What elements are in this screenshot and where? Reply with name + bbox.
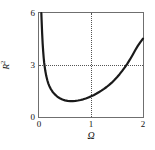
y-tick-label-6: 6 — [31, 9, 36, 18]
y-axis-label-exponent: 2 — [0, 61, 6, 64]
x-tick-label-2: 2 — [141, 120, 146, 129]
plot-area: 6 3 0 0 1 2 — [38, 12, 144, 118]
x-tick-label-0: 0 — [37, 120, 42, 129]
x-axis-label: Ω — [87, 131, 94, 141]
y-tick-label-0: 0 — [31, 113, 36, 122]
figure-container: R2 6 3 0 0 1 2 Ω — [0, 0, 155, 150]
x-tick-label-1: 1 — [89, 120, 94, 129]
y-axis-label-base: R — [1, 64, 11, 70]
data-curve — [39, 13, 143, 117]
y-tick-label-3: 3 — [31, 61, 36, 70]
y-axis-label: R2 — [2, 61, 11, 70]
